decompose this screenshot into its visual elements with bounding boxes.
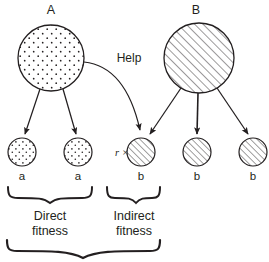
help-arrow-label: Help	[117, 51, 142, 65]
help-arrow	[84, 62, 140, 130]
offspring-1-label: a	[19, 170, 26, 182]
offspring-1-circle	[8, 138, 36, 166]
offspring-5-circle	[239, 138, 267, 166]
brace-total-fitness	[7, 240, 160, 258]
arrow-A-to-offspring-2	[63, 89, 76, 134]
individual-A-label: A	[47, 3, 56, 17]
arrow-A-to-offspring-1	[25, 89, 40, 134]
individual-A-circle	[18, 25, 84, 91]
offspring-4-label: b	[194, 170, 200, 182]
brace-indirect-fitness	[107, 187, 160, 203]
indirect-fitness-label-line1: Indirect	[114, 209, 156, 223]
offspring-2-label: a	[75, 170, 82, 182]
arrow-B-to-offspring-4	[197, 93, 198, 134]
individual-B-circle	[164, 23, 234, 93]
indirect-fitness-label-line2: fitness	[116, 224, 152, 238]
brace-direct-fitness	[8, 187, 92, 203]
offspring-4-circle	[183, 138, 211, 166]
offspring-2-circle	[64, 138, 92, 166]
arrow-B-to-offspring-3	[150, 88, 181, 134]
arrow-B-to-offspring-5	[217, 88, 248, 134]
figure-canvas: A B Help r × a a b b b Direct fitness In…	[0, 0, 269, 262]
offspring-3-label: b	[138, 170, 144, 182]
offspring-5-label: b	[250, 170, 256, 182]
individual-B-label: B	[192, 3, 200, 17]
relatedness-coefficient-label: r ×	[115, 147, 129, 158]
direct-fitness-label-line2: fitness	[32, 224, 68, 238]
kin-selection-diagram: A B Help r × a a b b b Direct fitness In…	[0, 0, 269, 262]
direct-fitness-label-line1: Direct	[34, 209, 67, 223]
offspring-3-circle	[127, 138, 155, 166]
